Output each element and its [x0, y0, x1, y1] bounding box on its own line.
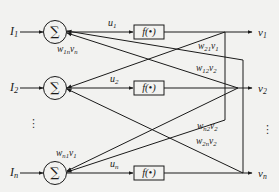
ellipsis-left: ⋮: [28, 118, 39, 129]
input-label-2: I2: [10, 81, 18, 96]
sigma-symbol-1: ∑: [44, 25, 66, 38]
weight-label-w1n-vn: w1nvn: [57, 45, 78, 55]
sigma-symbol-2: ∑: [44, 81, 66, 94]
input-label-1: I1: [10, 25, 18, 40]
internal-label-2: u2: [110, 74, 119, 86]
ellipsis-right: ⋮: [262, 124, 273, 135]
sigma-symbol-n: ∑: [44, 166, 66, 179]
weight-label-wn2-v2: wn2v2: [197, 122, 218, 132]
weight-label-w12-v2: w12v2: [196, 64, 217, 74]
activation-label-n: f(•): [134, 168, 164, 179]
internal-label-n: un: [110, 159, 119, 171]
weight-label-w21-v1: w21v1: [198, 42, 219, 52]
input-label-n: In: [10, 166, 18, 181]
weight-label-wn1-v1: wn1v1: [56, 149, 77, 159]
activation-label-1: f(•): [134, 27, 164, 38]
activation-label-2: f(•): [134, 83, 164, 94]
internal-label-1: u1: [108, 18, 117, 30]
weight-label-w2n-v2: w2nv2: [196, 137, 217, 147]
output-label-1: v1: [258, 27, 267, 40]
output-label-n: vn: [258, 168, 267, 181]
output-label-2: v2: [258, 83, 267, 96]
